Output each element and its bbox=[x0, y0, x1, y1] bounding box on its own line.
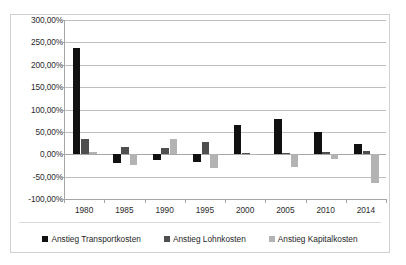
bar bbox=[354, 144, 362, 154]
y-axis-tick-label: 200,00% bbox=[31, 60, 63, 70]
legend-item[interactable]: Anstieg Lohnkosten bbox=[164, 235, 246, 243]
bar bbox=[282, 153, 290, 154]
x-axis-tick-label: 1990 bbox=[155, 205, 173, 215]
x-axis-tick-label: 2000 bbox=[236, 205, 254, 215]
y-axis-tick-mark bbox=[61, 65, 65, 66]
bar bbox=[153, 154, 161, 160]
bar bbox=[210, 154, 218, 167]
bar bbox=[161, 148, 169, 155]
bar bbox=[322, 152, 330, 154]
legend-item[interactable]: Anstieg Kapitalkosten bbox=[269, 235, 358, 243]
x-axis-tick-mark bbox=[265, 199, 266, 203]
chart-container: 300,00%250,00%200,00%150,00%100,00%50,00… bbox=[10, 14, 390, 253]
legend-swatch-icon bbox=[42, 236, 48, 242]
y-axis-tick-mark bbox=[61, 110, 65, 111]
bar bbox=[73, 48, 81, 154]
y-axis-tick-label: -50,00% bbox=[33, 172, 63, 182]
x-axis-tick-mark bbox=[64, 199, 65, 203]
plot-area bbox=[64, 20, 386, 199]
x-axis-tick-label: 2010 bbox=[316, 205, 334, 215]
bar bbox=[363, 151, 371, 155]
bar bbox=[331, 154, 339, 158]
plot-wrapper: 300,00%250,00%200,00%150,00%100,00%50,00… bbox=[11, 15, 389, 252]
bar bbox=[314, 132, 322, 154]
y-axis-tick-label: -100,00% bbox=[28, 194, 63, 204]
y-axis-tick-mark bbox=[61, 132, 65, 133]
bar bbox=[234, 125, 242, 154]
legend-divider bbox=[19, 222, 381, 223]
x-axis-tick-mark bbox=[145, 199, 146, 203]
y-axis-tick-label: 0,00% bbox=[40, 149, 63, 159]
bar bbox=[242, 153, 250, 154]
bar bbox=[130, 154, 138, 165]
y-axis-tick-mark bbox=[61, 42, 65, 43]
x-axis-tick-mark bbox=[346, 199, 347, 203]
bar bbox=[89, 152, 97, 154]
legend-swatch-icon bbox=[269, 236, 275, 242]
bars-layer bbox=[65, 20, 386, 199]
bar bbox=[274, 119, 282, 154]
bar bbox=[193, 154, 201, 162]
y-axis-tick-mark bbox=[61, 177, 65, 178]
x-axis: 19801985199019952000200520102014 bbox=[64, 205, 386, 219]
x-axis-tick-label: 1995 bbox=[196, 205, 214, 215]
y-axis-tick-label: 150,00% bbox=[31, 82, 63, 92]
y-axis-tick-mark bbox=[61, 154, 65, 155]
y-axis-tick-label: 250,00% bbox=[31, 37, 63, 47]
bar bbox=[170, 139, 178, 155]
y-axis-tick-label: 300,00% bbox=[31, 15, 63, 25]
bar bbox=[371, 154, 379, 183]
y-axis-tick-label: 100,00% bbox=[31, 105, 63, 115]
y-axis-tick-mark bbox=[61, 87, 65, 88]
x-axis-tick-mark bbox=[386, 199, 387, 203]
x-axis-tick-mark bbox=[225, 199, 226, 203]
bar bbox=[291, 154, 299, 167]
x-axis-tick-label: 1980 bbox=[75, 205, 93, 215]
bar bbox=[81, 139, 89, 155]
x-axis-tick-mark bbox=[306, 199, 307, 203]
x-axis-tick-label: 2005 bbox=[276, 205, 294, 215]
legend-item[interactable]: Anstieg Transportkosten bbox=[42, 235, 140, 243]
x-axis-tick-mark bbox=[104, 199, 105, 203]
legend-swatch-icon bbox=[164, 236, 170, 242]
y-axis-tick-mark bbox=[61, 20, 65, 21]
bar bbox=[113, 154, 121, 163]
legend-item-label: Anstieg Kapitalkosten bbox=[278, 235, 358, 243]
legend-item-label: Anstieg Lohnkosten bbox=[173, 235, 246, 243]
y-axis-tick-label: 50,00% bbox=[35, 127, 63, 137]
y-axis: 300,00%250,00%200,00%150,00%100,00%50,00… bbox=[13, 20, 63, 199]
legend-item-label: Anstieg Transportkosten bbox=[51, 235, 140, 243]
x-axis-tick-label: 2014 bbox=[357, 205, 375, 215]
x-axis-tick-label: 1985 bbox=[115, 205, 133, 215]
bar bbox=[121, 147, 129, 154]
bar bbox=[250, 154, 258, 155]
bar bbox=[202, 142, 210, 154]
chart-legend: Anstieg TransportkostenAnstieg Lohnkoste… bbox=[11, 228, 389, 250]
x-axis-tick-mark bbox=[185, 199, 186, 203]
